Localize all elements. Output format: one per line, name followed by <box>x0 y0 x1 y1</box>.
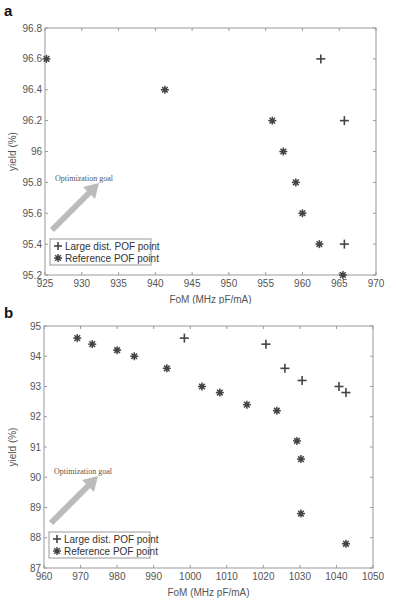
x-tick-label: 1030 <box>289 571 312 582</box>
data-point <box>315 240 323 248</box>
data-point <box>130 352 138 360</box>
legend-entry: Large dist. POF point <box>65 241 160 252</box>
legend-entry: Reference POF point <box>65 253 159 264</box>
data-point <box>273 407 281 415</box>
x-tick-label: 955 <box>257 278 274 289</box>
data-point <box>297 510 305 518</box>
x-tick-label: 950 <box>221 278 238 289</box>
data-point <box>292 178 300 186</box>
y-axis-label: yield (%) <box>7 132 18 171</box>
x-tick-label: 1040 <box>325 571 348 582</box>
y-tick-label: 95.4 <box>23 239 43 250</box>
x-tick-label: 970 <box>72 571 89 582</box>
data-point <box>335 382 344 391</box>
legend: Large dist. POF pointReference POF point <box>50 239 160 265</box>
data-point <box>280 364 289 373</box>
x-axis-label: FoM (MHz pF/mA) <box>169 294 251 304</box>
x-tick-label: 990 <box>145 571 162 582</box>
y-tick-label: 91 <box>30 442 42 453</box>
series-asterisk <box>73 334 350 548</box>
scatter-chart-a: 92593093594094595095596096597095.295.495… <box>0 0 396 304</box>
y-tick-label: 89 <box>30 502 42 513</box>
y-tick-label: 93 <box>30 381 42 392</box>
data-point <box>298 209 306 217</box>
y-tick-label: 95.2 <box>23 270 43 281</box>
x-tick-label: 965 <box>331 278 348 289</box>
data-point <box>161 86 169 94</box>
x-tick-label: 960 <box>294 278 311 289</box>
y-tick-label: 87 <box>30 563 42 574</box>
x-tick-label: 940 <box>147 278 164 289</box>
data-point <box>73 334 81 342</box>
y-tick-label: 90 <box>30 472 42 483</box>
data-point <box>216 389 224 397</box>
data-point <box>340 240 349 249</box>
plot-area <box>45 28 376 275</box>
x-tick-label: 970 <box>368 278 385 289</box>
legend-entry: Reference POF point <box>64 546 158 557</box>
data-point <box>261 340 270 349</box>
asterisk-marker-icon <box>54 254 62 262</box>
y-tick-label: 88 <box>30 532 42 543</box>
y-tick-label: 96.4 <box>23 84 43 95</box>
x-tick-label: 1050 <box>362 571 385 582</box>
y-tick-label: 95.8 <box>23 177 43 188</box>
scatter-chart-b: 9609709809901000101010201030104010508788… <box>0 304 396 608</box>
y-tick-label: 95 <box>30 321 42 332</box>
x-tick-label: 945 <box>184 278 201 289</box>
x-axis-label: FoM (MHz pF/mA) <box>167 587 249 598</box>
y-tick-label: 96.6 <box>23 53 43 64</box>
x-tick-label: 1010 <box>216 571 239 582</box>
asterisk-marker-icon <box>53 547 61 555</box>
data-point <box>198 383 206 391</box>
optimization-goal-label: Optimization goal <box>55 174 114 183</box>
y-tick-label: 94 <box>30 351 42 362</box>
y-tick-label: 96.2 <box>23 115 43 126</box>
data-point <box>268 117 276 125</box>
data-point <box>279 148 287 156</box>
x-tick-label: 930 <box>73 278 90 289</box>
legend: Large dist. POF pointReference POF point <box>49 532 159 558</box>
y-tick-label: 95.6 <box>23 208 43 219</box>
data-point <box>113 346 121 354</box>
x-tick-label: 935 <box>110 278 127 289</box>
legend-entry: Large dist. POF point <box>64 534 159 545</box>
y-tick-label: 96 <box>31 146 43 157</box>
data-point <box>340 116 349 125</box>
data-point <box>342 540 350 548</box>
data-point <box>163 364 171 372</box>
optimization-goal-arrow-icon <box>52 183 99 230</box>
data-point <box>88 340 96 348</box>
data-point <box>297 455 305 463</box>
data-point <box>42 55 50 63</box>
series-plus <box>180 334 351 397</box>
y-tick-label: 96.8 <box>23 23 43 34</box>
data-point <box>180 334 189 343</box>
x-tick-label: 980 <box>109 571 126 582</box>
x-tick-label: 1020 <box>252 571 275 582</box>
optimization-goal-arrow-icon <box>51 476 98 523</box>
data-point <box>293 437 301 445</box>
data-point <box>339 271 347 279</box>
data-point <box>316 54 325 63</box>
y-tick-label: 92 <box>30 411 42 422</box>
data-point <box>341 388 350 397</box>
optimization-goal-label: Optimization goal <box>54 467 113 476</box>
x-tick-label: 1000 <box>179 571 202 582</box>
data-point <box>243 401 251 409</box>
data-point <box>298 376 307 385</box>
series-plus <box>316 54 349 248</box>
y-axis-label: yield (%) <box>7 428 18 467</box>
